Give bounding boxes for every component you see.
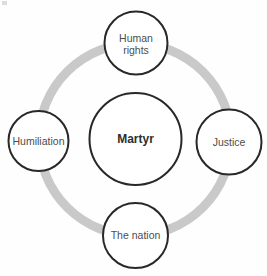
node-label-human-rights-line1: Human [119, 32, 153, 44]
node-label-human-rights-line2: rights [123, 44, 149, 56]
node-humiliation: Humiliation [9, 111, 69, 171]
node-label-the-nation: The nation [111, 229, 161, 241]
node-label-humiliation: Humiliation [13, 135, 65, 147]
node-justice: Justice [197, 110, 262, 175]
node-label-justice: Justice [213, 136, 246, 148]
scan-artifact [2, 1, 7, 5]
node-human-rights: Human rights [105, 12, 168, 75]
martyr-cycle-diagram: Human rights Justice The nation Humiliat… [0, 0, 267, 276]
node-martyr-center: Martyr [90, 93, 182, 185]
node-label-martyr: Martyr [117, 132, 154, 146]
node-the-nation: The nation [103, 203, 168, 268]
diagram-canvas: Human rights Justice The nation Humiliat… [0, 0, 267, 276]
